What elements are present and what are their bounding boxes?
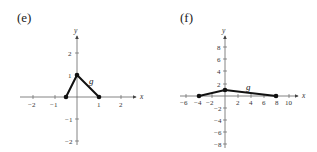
ytick-f: 6	[217, 56, 221, 64]
xtick-f: −6	[180, 99, 188, 107]
ytick-e: 2	[68, 50, 72, 58]
point	[223, 88, 228, 93]
point	[64, 95, 69, 100]
ytick-f: −4	[214, 117, 222, 125]
ytick-f: −6	[214, 129, 222, 137]
curve-label-f: g	[246, 82, 251, 92]
xtick-e: −1	[50, 101, 58, 109]
ytick-e: −2	[65, 138, 73, 146]
y-axis-label-e: y	[73, 26, 78, 35]
ytick-f: 4	[217, 68, 221, 76]
ytick-e: −1	[65, 116, 73, 124]
xtick-f: 8	[275, 99, 279, 107]
point	[274, 94, 279, 99]
ytick-f: 8	[217, 44, 221, 52]
xtick-f: 6	[262, 99, 266, 107]
curve-label-e: g	[89, 76, 94, 86]
xtick-f: −4	[194, 99, 202, 107]
point	[97, 95, 102, 100]
ytick-f: −8	[214, 141, 222, 149]
x-axis-label-e: x	[139, 92, 144, 101]
graph-e: x y −2 −1 1 2 2 1 −1 −2 g	[20, 26, 144, 146]
xtick-e: 2	[119, 101, 123, 109]
xtick-f: 2	[236, 99, 240, 107]
ytick-f: 2	[217, 81, 221, 89]
y-axis-label-f: y	[221, 26, 226, 35]
graph-f: x y −6 −4 −2 2 4 6 8 10 8 6 4	[180, 26, 306, 149]
ytick-f: −2	[214, 105, 222, 113]
ytick-e: 1	[68, 72, 72, 80]
xtick-f: 4	[249, 99, 253, 107]
graphs-canvas: x y −2 −1 1 2 2 1 −1 −2 g x y	[0, 0, 317, 152]
xtick-f: −2	[206, 99, 214, 107]
x-axis-label-f: x	[301, 91, 306, 100]
point	[75, 73, 80, 78]
point	[197, 94, 202, 99]
xtick-f: 10	[285, 99, 293, 107]
curve-g-f	[199, 90, 276, 96]
xtick-e: −2	[28, 101, 36, 109]
xtick-e: 1	[97, 101, 101, 109]
